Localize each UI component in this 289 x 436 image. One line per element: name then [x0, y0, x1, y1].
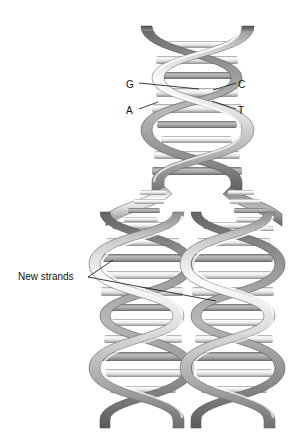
- base-label-a: A: [126, 105, 133, 116]
- daughter-helix-left: [89, 212, 194, 428]
- base-label-g: G: [126, 79, 134, 90]
- base-label-c: C: [238, 79, 245, 90]
- daughter-helix-right: [180, 212, 285, 428]
- new-strands-label: New strands: [18, 271, 74, 282]
- dna-replication-figure: G C A T New strands: [0, 0, 289, 436]
- dna-illustration: [0, 0, 289, 436]
- base-label-t: T: [238, 105, 244, 116]
